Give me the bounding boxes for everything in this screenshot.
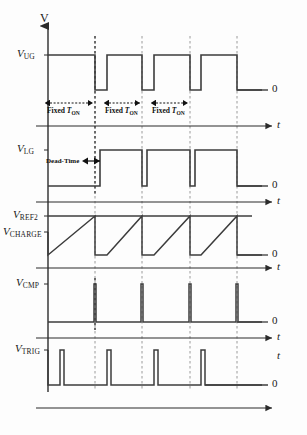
vref2-main: V (13, 208, 20, 220)
vtrig-sub: TRIG (22, 347, 40, 356)
vlg-zero-label: 0 (272, 179, 278, 190)
vcmp-sub: CMP (23, 281, 39, 290)
waveform-vcmp (48, 284, 262, 322)
vug-sub: UG (24, 52, 35, 61)
annotation-fixed-ton-3: Fixed TON (152, 107, 185, 115)
timing-diagram-figure: V VUG 0 t Fixed TON Fixed TON Fixed TON … (0, 0, 307, 435)
vcharge-main: V (3, 225, 10, 237)
waveform-label-vcharge: VCHARGE (3, 226, 42, 237)
waveform-label-vtrig: VTRIG (15, 343, 40, 354)
vug-zero-label: 0 (272, 83, 278, 94)
fixed-ton-1-prefix: Fixed (47, 106, 67, 115)
vtrig-main: V (15, 342, 22, 354)
annotation-fixed-ton-1: Fixed TON (47, 107, 80, 115)
fixed-ton-2-sub: ON (129, 110, 137, 116)
vcharge-time-label: t (277, 261, 280, 272)
fixed-ton-3-prefix: Fixed (152, 106, 172, 115)
vlg-time-label: t (277, 195, 280, 206)
waveform-label-vug: VUG (17, 48, 35, 59)
waveform-label-vref2: VREF2 (13, 209, 38, 220)
waveform-vtrig (48, 350, 262, 385)
vref2-sub: REF2 (20, 213, 38, 222)
waveform-vug (48, 55, 262, 90)
waveform-canvas (0, 0, 307, 435)
vcmp-main: V (16, 276, 23, 288)
waveform-vlg (48, 150, 262, 186)
vcharge-zero-label: 0 (272, 248, 278, 259)
waveform-label-vcmp: VCMP (16, 277, 39, 288)
vcmp-time-label: t (277, 331, 280, 342)
annotation-dead-time: Dead-Time (46, 158, 79, 165)
vug-time-label: t (277, 119, 280, 130)
fixed-ton-1-sub: ON (71, 110, 79, 116)
vcmp-zero-label: 0 (272, 315, 278, 326)
vtrig-zero-label: 0 (272, 378, 278, 389)
vlg-main: V (17, 142, 24, 154)
vertical-axis-label: V (40, 12, 49, 24)
vlg-sub: LG (24, 147, 34, 156)
gridlines (95, 36, 237, 390)
fixed-ton-2-prefix: Fixed (105, 106, 125, 115)
vcharge-sub: CHARGE (10, 230, 42, 239)
vug-main: V (17, 47, 24, 59)
annotation-fixed-ton-2: Fixed TON (105, 107, 138, 115)
fixed-ton-3-sub: ON (176, 110, 184, 116)
vtrig-time-label: t (277, 350, 280, 361)
waveform-vcharge (48, 216, 262, 255)
waveform-label-vlg: VLG (17, 143, 34, 154)
